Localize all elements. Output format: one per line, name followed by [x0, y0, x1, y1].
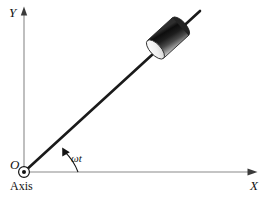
y-axis-label: Y [9, 6, 16, 19]
axis-center-dot [22, 170, 26, 174]
origin-axis-marker [19, 167, 30, 178]
axis-caption-label: Axis [10, 180, 33, 192]
y-axis-arrow-up-icon [21, 7, 27, 16]
x-axis-group [24, 169, 258, 176]
x-axis-arrow-right-icon [248, 169, 258, 176]
origin-label: O [10, 158, 19, 171]
physics-figure-rotating-rod: Y X O Axis ωt [0, 0, 271, 199]
angle-label-omega-t: ωt [71, 153, 82, 164]
y-axis-group [21, 7, 27, 173]
figure-canvas [0, 0, 271, 199]
x-axis-label: X [250, 179, 258, 192]
